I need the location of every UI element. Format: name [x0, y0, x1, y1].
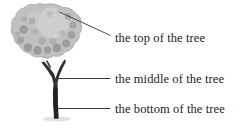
- label-bottom-of-tree: the bottom of the tree: [115, 103, 225, 116]
- label-middle-of-tree: the middle of the tree: [115, 73, 224, 86]
- tree-trunk: [42, 60, 67, 119]
- tree-diagram: the top of the tree the middle of the tr…: [0, 0, 252, 131]
- tree-canopy: [11, 4, 82, 58]
- label-top-of-tree: the top of the tree: [115, 32, 205, 45]
